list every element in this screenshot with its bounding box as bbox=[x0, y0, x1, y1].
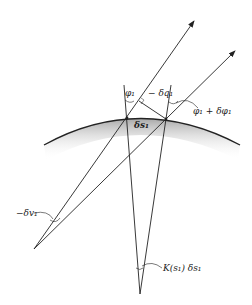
ray-diagram bbox=[0, 0, 252, 305]
angle-phi1-arc bbox=[125, 100, 134, 102]
point-p1 bbox=[126, 117, 129, 120]
wavefront-segment bbox=[139, 101, 166, 119]
normal-1 bbox=[124, 85, 140, 294]
point-p2 bbox=[165, 118, 168, 121]
label-phi1-plus-delta-phi1: φ₁ + δφ₁ bbox=[193, 107, 232, 116]
label-neg-delta-q1: − δq₁ bbox=[148, 89, 173, 98]
leader-k bbox=[142, 263, 162, 268]
label-phi1: φ₁ bbox=[125, 89, 135, 98]
label-neg-delta-v1: −δv₁ bbox=[16, 209, 38, 218]
label-curvature-term: K(s₁) δs₁ bbox=[163, 264, 201, 273]
label-delta-s1: δs₁ bbox=[134, 121, 149, 130]
angle-k-arc bbox=[136, 268, 143, 270]
